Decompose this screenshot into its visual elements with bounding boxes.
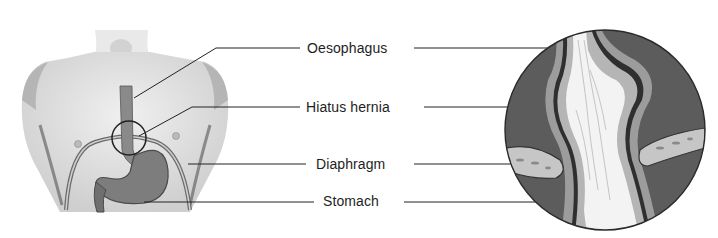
label-oesophagus: Oesophagus [307,40,387,56]
torso-illustration [22,30,228,212]
magnified-inset [500,25,705,238]
hiatus-hernia-diagram: Oesophagus Hiatus hernia Diaphragm Stoma… [0,0,718,238]
label-diaphragm: Diaphragm [316,156,385,172]
label-stomach: Stomach [323,193,379,209]
label-hiatus-hernia: Hiatus hernia [306,99,390,115]
